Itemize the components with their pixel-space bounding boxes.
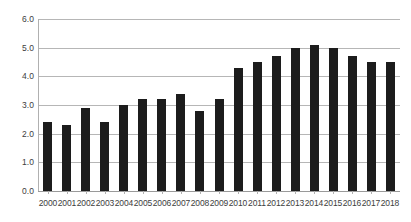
bar-2011 [253, 62, 262, 191]
x-tick-2003 [105, 191, 106, 194]
x-tick-2002 [86, 191, 87, 194]
x-tick-2007 [181, 191, 182, 194]
bar-2000 [43, 122, 52, 191]
bar-2017 [367, 62, 376, 191]
x-tick-2000 [48, 191, 49, 194]
bar-2016 [348, 56, 357, 191]
x-tick-2004 [124, 191, 125, 194]
bar-2012 [272, 56, 281, 191]
x-tick-2016 [352, 191, 353, 194]
x-tick-2012 [276, 191, 277, 194]
x-axis-labels: 2000200120022003200420052006200720082009… [38, 198, 400, 212]
x-tick-2006 [162, 191, 163, 194]
x-tick-2001 [67, 191, 68, 194]
x-tick-2009 [219, 191, 220, 194]
x-tick-2014 [314, 191, 315, 194]
bar-2004 [119, 105, 128, 191]
bar-2008 [195, 111, 204, 191]
bar-2013 [291, 48, 300, 191]
x-tick-2010 [238, 191, 239, 194]
bar-2002 [81, 108, 90, 191]
bar-2010 [234, 68, 243, 191]
bar-2005 [138, 99, 147, 191]
bars-container [38, 19, 400, 191]
bar-2001 [62, 125, 71, 191]
bar-chart: 0.01.02.03.04.05.06.0 200020012002200320… [0, 0, 411, 222]
y-tick-label-2.0: 2.0 [2, 130, 34, 139]
x-tick-label-2018: 2018 [378, 198, 402, 208]
bar-2015 [329, 48, 338, 191]
x-tick-2008 [200, 191, 201, 194]
y-tick-label-6.0: 6.0 [2, 15, 34, 24]
x-axis-ticks [38, 191, 400, 195]
x-tick-2005 [143, 191, 144, 194]
bar-2018 [386, 62, 395, 191]
x-tick-2017 [371, 191, 372, 194]
x-tick-2018 [390, 191, 391, 194]
bar-2007 [176, 94, 185, 191]
x-tick-2011 [257, 191, 258, 194]
y-axis-labels: 0.01.02.03.04.05.06.0 [0, 0, 34, 222]
y-tick-label-1.0: 1.0 [2, 158, 34, 167]
bar-2006 [157, 99, 166, 191]
bar-2009 [215, 99, 224, 191]
x-tick-2015 [333, 191, 334, 194]
y-tick-label-5.0: 5.0 [2, 44, 34, 53]
y-tick-label-4.0: 4.0 [2, 72, 34, 81]
bar-2014 [310, 45, 319, 191]
bar-2003 [100, 122, 109, 191]
y-tick-label-0.0: 0.0 [2, 187, 34, 196]
y-tick-label-3.0: 3.0 [2, 101, 34, 110]
x-tick-2013 [295, 191, 296, 194]
